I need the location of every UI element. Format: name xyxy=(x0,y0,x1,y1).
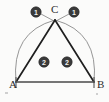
scan-speck-1 xyxy=(5,92,8,94)
angle-badge-b: 2 xyxy=(62,57,72,67)
scan-speck-2 xyxy=(96,93,98,95)
vertex-label-c: C xyxy=(51,3,58,15)
angle-badge-b-label: 2 xyxy=(65,59,69,66)
vertex-label-a: A xyxy=(9,78,17,90)
angle-badge-c-right-label: 1 xyxy=(72,9,76,16)
angle-badge-c-left-label: 1 xyxy=(34,9,38,16)
angle-badge-c-right: 1 xyxy=(69,7,79,17)
geometry-figure: A B C 1 1 2 2 xyxy=(0,0,109,102)
angle-badge-c-left: 1 xyxy=(31,7,41,17)
angle-badge-a-label: 2 xyxy=(42,59,46,66)
figure-canvas: A B C 1 1 2 2 xyxy=(0,0,109,102)
vertex-label-b: B xyxy=(97,78,104,90)
angle-badge-a: 2 xyxy=(39,57,49,67)
